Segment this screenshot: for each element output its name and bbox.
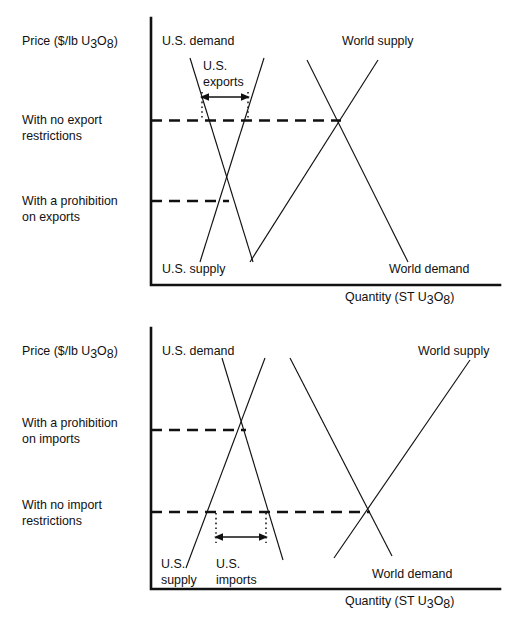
exports-level-label-no-restrictions-line1: With no export	[22, 113, 102, 127]
imports-us-supply-label-line1: U.S.	[161, 557, 185, 571]
imports-world-demand-curve	[290, 358, 392, 556]
exports-us-demand-label: U.S. demand	[162, 34, 234, 48]
exports-world-demand-curve	[307, 60, 408, 262]
exports-world-supply-curve	[250, 60, 378, 262]
exports-us-supply-label: U.S. supply	[162, 262, 226, 276]
imports-chart-panel: Price ($/lb U3O8) Quantity (ST U3O8) Wit…	[0, 310, 521, 619]
imports-world-demand-label: World demand	[372, 567, 452, 581]
exports-chart-svg: Price ($/lb U3O8) Quantity (ST U3O8) Wit…	[0, 0, 521, 310]
imports-span-arrow	[214, 533, 268, 541]
imports-level-label-no-restrictions-line1: With no import	[22, 498, 102, 512]
exports-world-supply-label: World supply	[342, 34, 414, 48]
exports-span-label-line1: U.S.	[203, 59, 227, 73]
imports-world-supply-label: World supply	[418, 344, 490, 358]
exports-span-label-line2: exports	[203, 75, 244, 89]
imports-us-demand-label: U.S. demand	[162, 344, 234, 358]
exports-level-label-prohibition-line1: With a prohibition	[22, 194, 118, 208]
imports-price-axis-label: Price ($/lb U3O8)	[22, 344, 118, 361]
exports-chart-panel: Price ($/lb U3O8) Quantity (ST U3O8) Wit…	[0, 0, 521, 310]
imports-quantity-axis-label: Quantity (ST U3O8)	[345, 594, 454, 611]
exports-quantity-axis-label: Quantity (ST U3O8)	[345, 290, 454, 307]
imports-us-demand-curve	[222, 358, 283, 560]
imports-us-supply-label-line2: supply	[161, 573, 198, 587]
imports-chart-svg: Price ($/lb U3O8) Quantity (ST U3O8) Wit…	[0, 310, 521, 619]
exports-span-arrow	[200, 93, 250, 101]
imports-span-label-line2: imports	[216, 573, 257, 587]
exports-price-axis-label: Price ($/lb U3O8)	[22, 34, 118, 51]
imports-span-label-line1: U.S.	[216, 557, 240, 571]
imports-world-supply-curve	[334, 360, 470, 558]
imports-level-label-prohibition-line1: With a prohibition	[22, 416, 118, 430]
imports-level-label-prohibition-line2: on imports	[22, 432, 80, 446]
imports-level-label-no-restrictions-line2: restrictions	[22, 514, 82, 528]
exports-level-label-prohibition-line2: on exports	[22, 210, 80, 224]
imports-axes	[151, 328, 500, 589]
exports-world-demand-label: World demand	[389, 262, 469, 276]
exports-level-label-no-restrictions-line2: restrictions	[22, 129, 82, 143]
